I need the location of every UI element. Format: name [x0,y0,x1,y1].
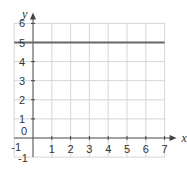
tick-labels: 12345671234560-1-1xy [11,7,187,164]
y-tick-label: 3 [19,75,25,87]
y-tick-label: 4 [19,56,25,68]
y-tick-label: 1 [19,113,25,125]
y-axis-label: y [21,7,28,21]
x-axis-arrow-icon [170,135,177,141]
y-tick-label: 2 [19,94,25,106]
origin-label: 0 [21,125,27,137]
y-negative-label: -1 [18,152,28,164]
axes [14,12,176,157]
x-tick-label: 6 [143,143,149,155]
y-axis-arrow-icon [30,12,36,19]
x-tick-label: 7 [162,143,168,155]
y-tick-label: 5 [19,37,25,49]
x-tick-label: 2 [68,143,74,155]
x-tick-label: 3 [86,143,92,155]
x-axis-label: x [181,131,187,145]
x-tick-label: 1 [49,143,55,155]
x-tick-label: 4 [105,143,111,155]
chart: 12345671234560-1-1xy [0,0,187,170]
x-tick-label: 5 [124,143,130,155]
